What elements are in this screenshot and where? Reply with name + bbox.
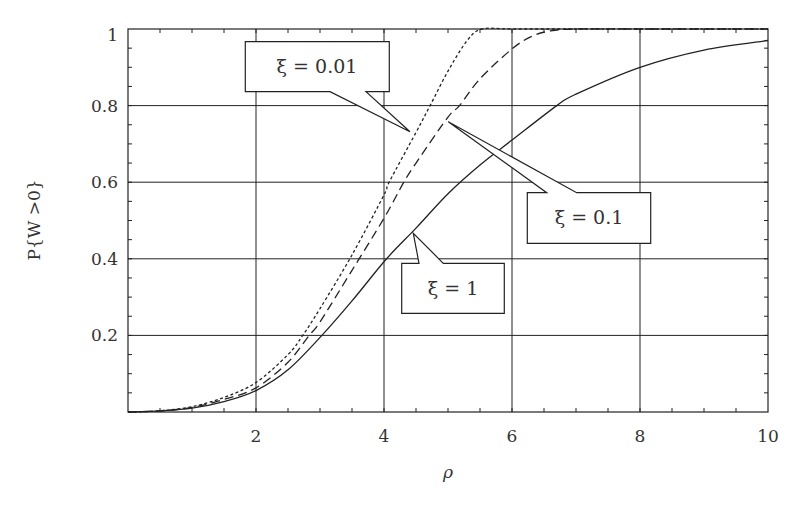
x-tick-label: 6 xyxy=(507,426,518,446)
chart: 2 4 6 8 10 0.2 0.4 0.6 0.8 1 ρ P{W >0} ξ… xyxy=(0,0,800,505)
y-tick-label: 0.6 xyxy=(91,172,118,192)
x-axis-label: ρ xyxy=(442,462,453,482)
series-line-dashed xyxy=(128,29,768,412)
x-tick-label: 10 xyxy=(757,426,779,446)
callout-label: ξ = 1 xyxy=(428,277,479,299)
callout-label: ξ = 0.1 xyxy=(555,206,624,228)
callout-xi-0.01: ξ = 0.01 xyxy=(245,42,410,132)
axis-ticks xyxy=(128,29,768,412)
y-axis-label: P{W >0} xyxy=(24,179,44,260)
x-tick-labels: 2 4 6 8 10 xyxy=(251,426,779,446)
curves xyxy=(128,28,768,412)
x-tick-label: 8 xyxy=(635,426,646,446)
y-tick-label: 0.2 xyxy=(91,325,118,345)
plot-frame xyxy=(128,29,768,412)
series-line-solid xyxy=(128,40,768,412)
series-line-dotted xyxy=(128,28,768,412)
y-tick-label: 1 xyxy=(107,25,118,45)
callout-label: ξ = 0.01 xyxy=(277,55,358,77)
callout-xi-1: ξ = 1 xyxy=(402,233,505,313)
x-tick-label: 2 xyxy=(251,426,262,446)
y-tick-label: 0.8 xyxy=(91,96,118,116)
y-tick-label: 0.4 xyxy=(91,249,118,269)
callout-box xyxy=(402,233,505,313)
y-tick-labels: 0.2 0.4 0.6 0.8 1 xyxy=(91,25,118,345)
x-tick-label: 4 xyxy=(379,426,390,446)
grid-lines xyxy=(128,29,768,412)
